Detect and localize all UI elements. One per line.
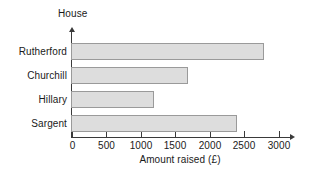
- bar-rutherford: [71, 43, 264, 60]
- x-tick-label-0: 0: [60, 140, 85, 151]
- x-axis-title: Amount raised (£): [100, 154, 260, 165]
- bar-sargent: [71, 115, 237, 132]
- x-axis-line: [71, 137, 291, 138]
- bar-chart: House Rutherford Churchill Hillary Sarge…: [0, 0, 327, 171]
- category-label-churchill: Churchill: [0, 70, 67, 81]
- category-label-sargent: Sargent: [0, 118, 67, 129]
- x-tick-label-500: 500: [92, 140, 121, 151]
- category-label-rutherford: Rutherford: [0, 46, 67, 57]
- x-tick-mark: [244, 131, 245, 137]
- x-tick-label-3000: 3000: [263, 140, 295, 151]
- y-axis-arrow-icon: [69, 27, 75, 32]
- x-tick-label-1500: 1500: [159, 140, 191, 151]
- x-tick-label-1000: 1000: [125, 140, 157, 151]
- category-label-hillary: Hillary: [0, 94, 67, 105]
- x-tick-label-2500: 2500: [228, 140, 260, 151]
- bar-churchill: [71, 67, 188, 84]
- x-tick-mark: [279, 131, 280, 137]
- bar-hillary: [71, 91, 154, 108]
- y-axis-title: House: [58, 8, 87, 19]
- x-tick-label-2000: 2000: [194, 140, 226, 151]
